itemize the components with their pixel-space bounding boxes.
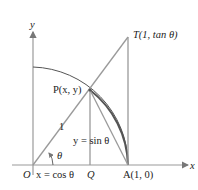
cos-label: x = cos θ: [36, 169, 74, 180]
angle-label: θ: [57, 150, 62, 161]
angle-theta-arc: [49, 153, 53, 165]
point-p-label: P(x, y): [53, 84, 82, 96]
unit-circle-diagram: y x T(1, tan θ) P(x, y) 1 y = sin θ θ O …: [0, 0, 198, 190]
point-a-label: A(1, 0): [123, 169, 154, 181]
point-p: [88, 88, 91, 91]
origin-label: O: [23, 169, 31, 180]
chord-p-to-a: [90, 90, 128, 165]
y-axis-label: y: [29, 19, 35, 30]
radius-label: 1: [59, 121, 64, 132]
x-axis-label: x: [189, 160, 195, 171]
point-t-label: T(1, tan θ): [133, 29, 178, 41]
sin-label: y = sin θ: [73, 135, 109, 146]
point-q-label: Q: [87, 169, 95, 180]
